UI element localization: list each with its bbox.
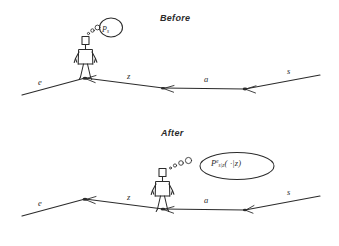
after-arrowheads [86,197,255,214]
panel-title-before: Before [160,13,190,23]
before-path-polyline [22,75,320,95]
before-segment-label-e: e [38,77,42,87]
before-segment-label-a: a [204,74,208,84]
after-segment-label-a: a [204,195,208,205]
after-stick-figure [151,169,174,212]
before-bubble-formula: Ps [102,26,109,35]
before-segment-label-s: s [287,66,290,76]
before-arrowheads [86,76,257,94]
after-path-polyline [22,196,320,216]
before-bubble-subscript: s [107,28,109,34]
after-segment-label-z: z [127,192,130,202]
after-bubble-argument: ( ·|z) [225,158,242,168]
after-bubble-formula: Pes|z( ·|z) [211,159,241,169]
diagram-artwork [0,0,339,246]
before-stick-figure [74,37,97,80]
after-segment-label-s: s [287,187,290,197]
after-thought-dots [170,157,192,169]
before-segment-label-z: z [127,71,130,81]
diagram-canvas: Before Ps e z a s After Pes|z( ·|z) e z … [0,0,339,246]
after-segment-label-e: e [38,198,42,208]
panel-title-after: After [161,128,184,138]
before-thought-dots [87,25,100,35]
